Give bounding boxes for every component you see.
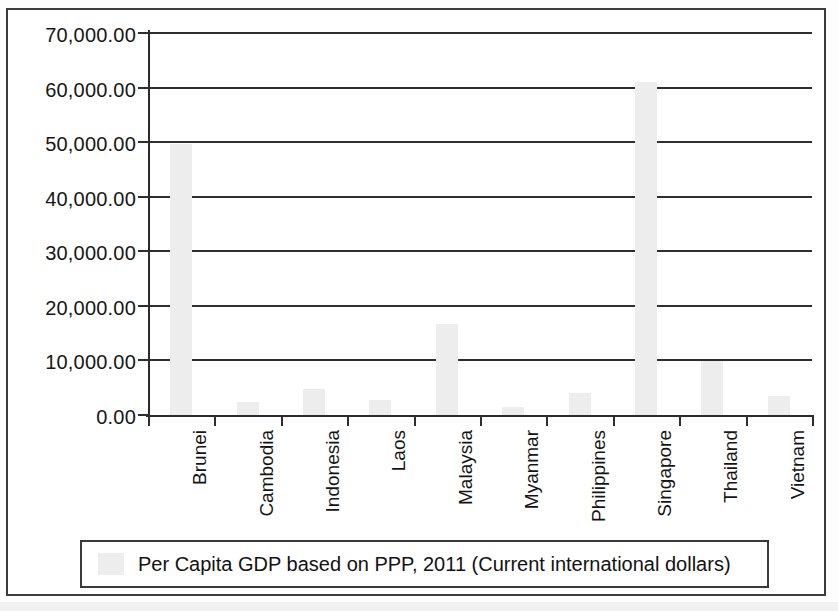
x-axis-label-vietnam: Vietnam [787,430,809,499]
bar-vietnam [768,396,790,415]
x-tick-origin [148,415,150,426]
y-axis-label-60000: 60,000.00 [6,79,136,102]
bar-thailand [701,361,723,415]
legend-label: Per Capita GDP based on PPP, 2011 (Curre… [138,553,731,576]
bar-philippines [569,393,591,415]
x-axis-label-singapore: Singapore [654,430,676,517]
bar-chart: 70,000.00 60,000.00 50,000.00 40,000.00 … [0,0,838,611]
x-tick-indonesia [347,415,349,426]
legend-swatch-icon [98,553,124,575]
bar-laos [369,400,391,415]
y-axis-label-30000: 30,000.00 [6,242,136,265]
x-tick-malaysia [480,415,482,426]
y-axis-label-20000: 20,000.00 [6,297,136,320]
bar-myanmar [502,407,524,415]
x-tick-singapore [679,415,681,426]
x-axis-label-malaysia: Malaysia [455,430,477,505]
y-tick-30000 [138,250,148,252]
x-tick-thailand [746,415,748,426]
x-axis-label-thailand: Thailand [720,430,742,503]
x-axis-label-philippines: Philippines [588,430,610,522]
y-axis-labels: 70,000.00 60,000.00 50,000.00 40,000.00 … [0,0,136,611]
y-tick-70000 [138,32,148,34]
y-tick-10000 [138,359,148,361]
y-tick-50000 [138,141,148,143]
x-tick-philippines [613,415,615,426]
x-axis-label-cambodia: Cambodia [256,430,278,517]
y-tick-60000 [138,87,148,89]
y-axis-label-50000: 50,000.00 [6,133,136,156]
x-axis-line [146,415,812,417]
x-axis-label-indonesia: Indonesia [322,430,344,512]
y-tick-40000 [138,196,148,198]
bar-brunei [170,144,192,415]
chart-page: 70,000.00 60,000.00 50,000.00 40,000.00 … [0,0,838,611]
bar-indonesia [303,389,325,415]
y-axis-label-10000: 10,000.00 [6,351,136,374]
bar-cambodia [237,402,259,415]
y-axis-label-0: 0.00 [6,406,136,429]
x-tick-myanmar [546,415,548,426]
y-tick-20000 [138,305,148,307]
y-axis-label-40000: 40,000.00 [6,188,136,211]
bar-singapore [635,82,657,415]
x-axis-label-laos: Laos [388,430,410,471]
x-tick-cambodia [281,415,283,426]
x-axis-label-myanmar: Myanmar [521,430,543,509]
scan-edge [0,602,838,611]
x-tick-brunei [214,415,216,426]
x-tick-vietnam [812,415,814,426]
bar-series [148,32,812,415]
y-axis-line [148,30,150,417]
chart-legend: Per Capita GDP based on PPP, 2011 (Curre… [80,540,769,588]
x-tick-laos [414,415,416,426]
y-axis-label-70000: 70,000.00 [6,24,136,47]
bar-malaysia [436,324,458,415]
x-axis-label-brunei: Brunei [189,430,211,485]
